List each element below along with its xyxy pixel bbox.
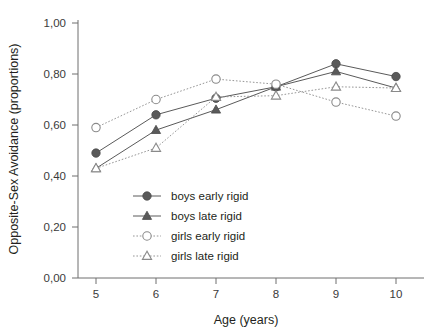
legend-marker-icon	[142, 251, 151, 259]
y-tick-label: 0,40	[44, 170, 66, 182]
data-point	[392, 72, 400, 80]
data-point	[151, 143, 160, 151]
legend-marker-icon	[143, 192, 151, 200]
y-axis-tick-labels: 1,00 0,80 0,60 0,40 0,20 0,00	[44, 17, 66, 284]
y-axis-ticks	[72, 23, 78, 278]
legend-item: boys late rigid	[133, 210, 242, 222]
data-point	[92, 123, 100, 131]
x-tick-label: 8	[273, 288, 279, 300]
data-point	[332, 98, 340, 106]
y-axis-title: Opposite-Sex Avoidance (proportions)	[7, 44, 21, 255]
legend-item: boys early rigid	[133, 190, 248, 202]
data-point	[272, 80, 280, 88]
line-chart: 1,00 0,80 0,60 0,40 0,20 0,00 5 6 7 8 9 …	[0, 0, 430, 334]
y-tick-label: 0,60	[44, 119, 66, 131]
y-tick-label: 0,00	[44, 272, 66, 284]
series-girls-early-rigid	[92, 75, 400, 132]
data-point	[212, 75, 220, 83]
x-tick-label: 9	[333, 288, 339, 300]
data-point	[331, 82, 340, 90]
x-tick-label: 6	[153, 288, 159, 300]
x-axis-title: Age (years)	[214, 313, 279, 327]
data-point	[392, 112, 400, 120]
legend-item: girls late rigid	[133, 250, 239, 262]
data-point	[91, 164, 100, 172]
y-tick-label: 0,80	[44, 68, 66, 80]
legend-item: girls early rigid	[133, 230, 245, 242]
data-point	[152, 95, 160, 103]
chart-legend: boys early rigidboys late rigidgirls ear…	[133, 190, 248, 262]
x-tick-label: 7	[213, 288, 219, 300]
chart-figure: 1,00 0,80 0,60 0,40 0,20 0,00 5 6 7 8 9 …	[0, 0, 430, 334]
data-point	[152, 111, 160, 119]
legend-label: boys late rigid	[171, 210, 242, 222]
x-axis-ticks	[96, 278, 396, 284]
data-point	[92, 149, 100, 157]
series-boys-early-rigid	[92, 60, 400, 158]
x-tick-label: 5	[93, 288, 99, 300]
y-tick-label: 0,20	[44, 221, 66, 233]
data-point	[331, 67, 340, 75]
legend-label: girls early rigid	[171, 230, 245, 242]
legend-marker-icon	[142, 211, 151, 219]
series-boys-late-rigid	[91, 67, 400, 172]
legend-label: girls late rigid	[171, 250, 239, 262]
x-tick-label: 10	[390, 288, 403, 300]
data-series-layer	[91, 60, 400, 172]
legend-label: boys early rigid	[171, 190, 248, 202]
legend-marker-icon	[143, 232, 151, 240]
y-tick-label: 1,00	[44, 17, 66, 29]
x-axis-tick-labels: 5 6 7 8 9 10	[93, 288, 403, 300]
